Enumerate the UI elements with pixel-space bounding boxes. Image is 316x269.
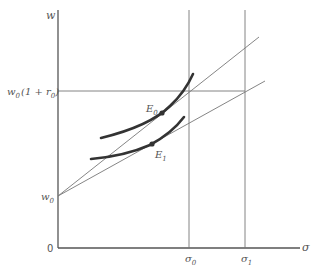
origin-label: 0: [47, 243, 53, 254]
w0-tick-label: w0: [41, 191, 55, 205]
sigma0-tick-label: σ0: [185, 253, 197, 267]
point-E1-label: E1: [154, 149, 167, 163]
y-axis-label: w: [46, 9, 56, 22]
point-E0-label: E0: [145, 103, 158, 117]
point-E0-marker: [159, 110, 164, 115]
point-E1-marker: [149, 141, 154, 146]
sigma1-tick-label: σ1: [241, 253, 252, 267]
diagram-canvas: w σ 0 w0 w0(1 + r0) σ0 σ1 E0 E1: [0, 0, 316, 269]
w0r0-tick-label: w0(1 + r0): [7, 86, 59, 100]
x-axis-label: σ: [302, 241, 310, 254]
